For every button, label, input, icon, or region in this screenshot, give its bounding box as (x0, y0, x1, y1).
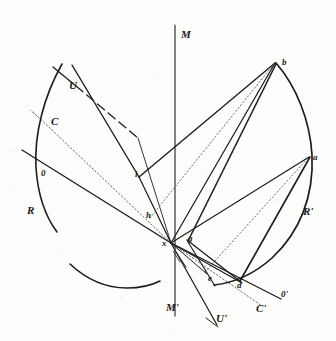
label-u-left: U (69, 80, 77, 91)
label-r-left: R (27, 205, 34, 216)
paper-speck (243, 113, 244, 114)
arc-right (214, 63, 312, 285)
label-b-point: b (282, 58, 287, 67)
ray-i-to-b (139, 63, 275, 177)
paper-speck (60, 250, 61, 251)
label-u-right: U' (216, 313, 227, 324)
label-a-point: a (313, 153, 318, 162)
ray-g-to-arc-bottom (187, 240, 241, 282)
figure-canvas: M M' U C 0 R i h x g b a R' e d 0' C' U' (0, 0, 336, 341)
label-i-point: i (135, 170, 138, 179)
arc-left-lower (70, 264, 160, 288)
paper-speck (96, 108, 97, 109)
arc-left-upper (36, 64, 62, 232)
ray-h-to-b-dashed (150, 64, 274, 218)
label-d-point: d (237, 281, 242, 290)
label-c-right: C' (256, 303, 266, 314)
label-o-right: 0' (281, 290, 288, 299)
paper-speck (205, 170, 206, 171)
ray-g-to-b (188, 64, 276, 241)
ray-x-to-b (171, 63, 275, 243)
paper-speck (12, 150, 13, 151)
axis-label-m-prime: M' (166, 302, 179, 313)
line-u-mid-dashed (76, 86, 138, 138)
paper-speck (171, 333, 172, 334)
label-g-point: g (188, 234, 193, 243)
label-r-right: R' (303, 206, 313, 217)
label-x-point: x (162, 239, 167, 248)
label-c-left: C (51, 116, 58, 127)
label-o-left: 0 (41, 169, 46, 178)
paper-speck (120, 296, 121, 297)
axis-label-m: M (181, 29, 191, 40)
dash-tail-upper-left (30, 110, 38, 117)
line-uleft-to-i (72, 65, 139, 177)
label-h-point: h (146, 211, 151, 220)
paper-speck (155, 75, 156, 76)
ray-x-to-a (171, 157, 309, 243)
paper-speck (8, 188, 9, 189)
paper-speck (276, 201, 277, 202)
label-e-point: e (208, 274, 212, 283)
